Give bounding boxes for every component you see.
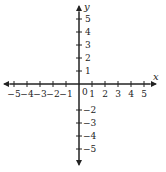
y-tick-label: 5 bbox=[85, 14, 91, 24]
origin-label: 0 bbox=[82, 87, 88, 97]
coordinate-plane: −5−4−3−2−112345 54321−2−3−4−5 x y 0 bbox=[0, 0, 166, 172]
y-axis-label: y bbox=[83, 1, 90, 12]
y-tick-label: 4 bbox=[85, 27, 91, 37]
x-tick-label: −2 bbox=[46, 89, 59, 99]
x-tick-label: 4 bbox=[128, 89, 134, 99]
y-tick-label: 2 bbox=[85, 53, 91, 63]
x-tick-label: −3 bbox=[33, 89, 47, 99]
x-tick-label: 2 bbox=[102, 89, 108, 99]
x-tick-label: −4 bbox=[20, 89, 34, 99]
y-tick-label: 3 bbox=[85, 40, 91, 50]
y-tick-label: −2 bbox=[83, 105, 96, 115]
x-axis-label: x bbox=[153, 71, 159, 82]
x-tick-label: −1 bbox=[59, 89, 72, 99]
y-tick-label: −4 bbox=[83, 131, 97, 141]
y-tick-label: −5 bbox=[83, 144, 97, 154]
x-tick-label: −5 bbox=[7, 89, 21, 99]
x-tick-label: 5 bbox=[141, 89, 147, 99]
y-tick-label: −3 bbox=[83, 118, 97, 128]
x-tick-label: 1 bbox=[89, 89, 95, 99]
x-tick-label: 3 bbox=[115, 89, 121, 99]
y-tick-label: 1 bbox=[85, 66, 91, 76]
